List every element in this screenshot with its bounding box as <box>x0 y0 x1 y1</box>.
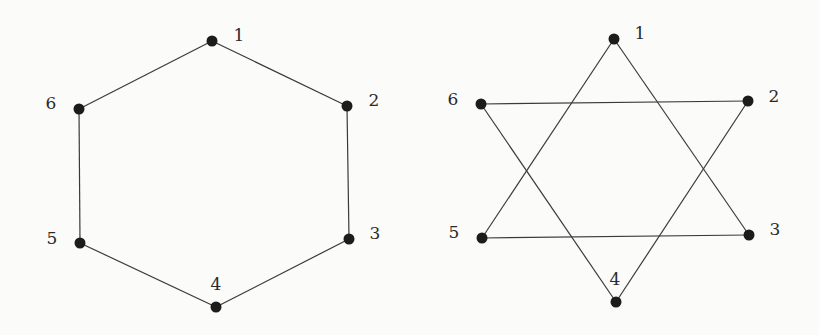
graph-figure: 123456 123456 <box>0 0 819 335</box>
vertex-label-5: 5 <box>449 222 460 242</box>
vertex-5 <box>477 233 488 244</box>
vertex-4 <box>611 297 622 308</box>
vertex-1 <box>207 36 218 47</box>
vertex-label-6: 6 <box>448 89 459 109</box>
vertex-1 <box>609 34 620 45</box>
vertex-label-3: 3 <box>770 219 781 239</box>
vertex-label-1: 1 <box>234 25 245 45</box>
vertex-2 <box>743 96 754 107</box>
edge-1-2 <box>212 41 347 106</box>
vertex-label-2: 2 <box>369 90 380 110</box>
vertex-6 <box>476 99 487 110</box>
vertex-4 <box>211 302 222 313</box>
vertex-label-5: 5 <box>47 228 58 248</box>
edge-6-2 <box>481 101 748 104</box>
vertex-2 <box>342 101 353 112</box>
vertex-label-2: 2 <box>769 86 780 106</box>
hexagon-cycle-graph: 123456 <box>46 25 381 313</box>
edge-2-3 <box>347 106 349 239</box>
edge-5-1 <box>482 39 614 238</box>
edge-5-6 <box>79 109 80 243</box>
edge-2-4 <box>616 101 748 302</box>
vertex-5 <box>75 238 86 249</box>
two-triangles-star-graph: 123456 <box>448 23 781 308</box>
vertex-label-3: 3 <box>370 223 381 243</box>
edge-1-3 <box>614 39 749 235</box>
vertex-label-4: 4 <box>211 274 222 294</box>
edge-4-6 <box>481 104 616 302</box>
edge-6-1 <box>79 41 212 109</box>
vertex-label-1: 1 <box>635 23 646 43</box>
vertex-label-6: 6 <box>46 93 57 113</box>
edge-4-5 <box>80 243 216 307</box>
vertex-3 <box>344 234 355 245</box>
vertex-3 <box>744 230 755 241</box>
edge-3-5 <box>482 235 749 238</box>
edge-3-4 <box>216 239 349 307</box>
vertex-label-4: 4 <box>610 269 621 289</box>
vertex-6 <box>74 104 85 115</box>
